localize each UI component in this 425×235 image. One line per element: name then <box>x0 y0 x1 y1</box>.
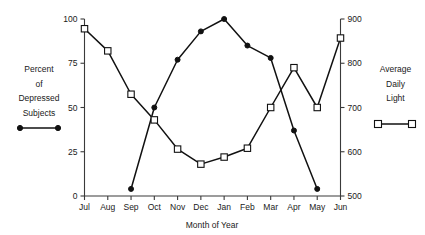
left-tick-label: 0 <box>73 191 78 201</box>
right-axis-legend: Average Daily Light <box>368 62 423 134</box>
x-tick-label: Apr <box>287 202 300 212</box>
axes-group <box>85 19 341 196</box>
left-legend-line-4: Subjects <box>4 106 74 121</box>
x-tick-label: Jul <box>79 202 90 212</box>
left-tick-label: 100 <box>63 14 77 24</box>
right-tick-label: 500 <box>348 191 362 201</box>
data-point-open-square <box>291 64 297 70</box>
right-tick-label: 600 <box>348 147 362 157</box>
data-point-open-square <box>128 91 134 97</box>
left-tick-label: 25 <box>68 147 78 157</box>
x-tick-label: Mar <box>263 202 278 212</box>
right-tick-label: 700 <box>348 103 362 113</box>
x-tick-label: Dec <box>193 202 209 212</box>
right-legend-line-2: Daily <box>368 77 423 92</box>
left-axis-legend: Percent of Depressed Subjects <box>4 62 74 136</box>
x-tick-label: Feb <box>240 202 255 212</box>
data-point-open-square <box>174 146 180 152</box>
data-point-open-square <box>151 117 157 123</box>
data-series-group <box>81 17 343 192</box>
right-axis-ticks: 500600700800900 <box>341 14 362 201</box>
data-point-open-square <box>198 161 204 167</box>
data-point-filled-circle <box>175 57 180 62</box>
data-point-filled-circle <box>315 186 320 191</box>
x-axis-title: Month of Year <box>186 220 239 230</box>
data-point-filled-circle <box>198 29 203 34</box>
x-tick-label: Jun <box>334 202 348 212</box>
left-legend-line-1: Percent <box>4 62 74 77</box>
x-tick-label: Aug <box>100 202 115 212</box>
x-tick-label: Nov <box>170 202 186 212</box>
right-tick-label: 900 <box>348 14 362 24</box>
data-point-open-square <box>244 145 250 151</box>
chart-container: Percent of Depressed Subjects Average Da… <box>0 0 425 235</box>
data-point-open-square <box>105 48 111 54</box>
x-tick-label: Oct <box>148 202 162 212</box>
data-point-open-square <box>314 104 320 110</box>
data-point-filled-circle <box>268 55 273 60</box>
data-point-open-square <box>81 26 87 32</box>
left-legend-line-2: of <box>4 77 74 92</box>
left-legend-marker-icon <box>4 120 74 136</box>
data-point-open-square <box>267 104 273 110</box>
data-point-filled-circle <box>291 128 296 133</box>
data-point-filled-circle <box>152 105 157 110</box>
data-point-filled-circle <box>222 17 227 22</box>
data-point-open-square <box>221 154 227 160</box>
right-tick-label: 800 <box>348 58 362 68</box>
data-point-filled-circle <box>245 43 250 48</box>
x-tick-label: Sep <box>123 202 138 212</box>
data-point-filled-circle <box>129 186 134 191</box>
series-line-depressed-percent <box>131 19 317 189</box>
right-legend-marker-icon <box>368 106 423 134</box>
x-tick-label: May <box>309 202 326 212</box>
x-tick-label: Jan <box>217 202 231 212</box>
series-line-daily-light <box>85 29 341 164</box>
right-legend-line-3: Light <box>368 91 423 106</box>
data-point-open-square <box>337 35 343 41</box>
left-legend-line-3: Depressed <box>4 91 74 106</box>
right-legend-line-1: Average <box>368 62 423 77</box>
x-axis-ticks: JulAugSepOctNovDecJanFebMarAprMayJun <box>79 196 348 212</box>
